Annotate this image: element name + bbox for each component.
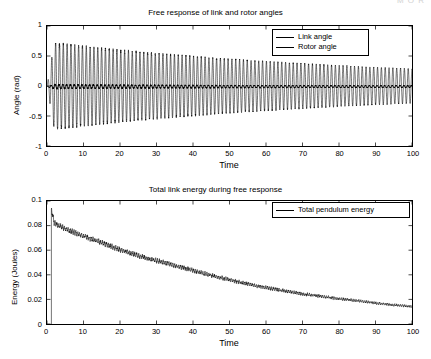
angle-legend: Link angle Rotor angle (272, 29, 369, 56)
legend-label-total-energy: Total pendulum energy (298, 206, 374, 214)
angle-yaxis-label: Angle (rad) (12, 75, 21, 115)
energy-xtick-10: 100 (407, 328, 420, 336)
angle-ytick-1: 0.5 (20, 52, 42, 60)
energy-xtick-1: 10 (79, 328, 87, 336)
energy-yaxis-label: Energy (Joules) (10, 249, 19, 305)
angle-xtick-0: 0 (44, 150, 48, 158)
energy-chart-title: Total link energy during free response (0, 185, 431, 195)
legend-label-rotor-angle: Rotor angle (298, 43, 337, 51)
angle-xtick-2: 20 (115, 150, 123, 158)
angle-xtick-9: 90 (372, 150, 380, 158)
energy-ytick-5: 0 (26, 321, 42, 329)
angle-xtick-5: 50 (225, 150, 233, 158)
energy-xtick-0: 0 (44, 328, 48, 336)
energy-xtick-5: 50 (225, 328, 233, 336)
energy-xtick-6: 60 (262, 328, 270, 336)
angle-xtick-3: 30 (152, 150, 160, 158)
angle-ytick-3: -0.5 (18, 113, 42, 121)
legend-line-icon (276, 210, 294, 211)
legend-label-link-angle: Link angle (298, 33, 332, 41)
angle-panel: Free response of link and rotor angles 1… (0, 0, 431, 180)
angle-xtick-8: 80 (335, 150, 343, 158)
legend-item-rotor-angle: Rotor angle (276, 42, 364, 52)
energy-panel: Total link energy during free response 0… (0, 180, 431, 359)
energy-ytick-0: 0.1 (18, 196, 42, 204)
legend-line-icon (276, 47, 294, 48)
angle-ytick-0: 1 (24, 21, 42, 29)
energy-plot-canvas (47, 201, 412, 324)
legend-item-total-energy: Total pendulum energy (276, 205, 405, 215)
angle-xtick-4: 40 (189, 150, 197, 158)
legend-line-icon (276, 37, 294, 38)
energy-xtick-2: 20 (115, 328, 123, 336)
angle-chart-title: Free response of link and rotor angles (0, 8, 431, 18)
angle-xtick-1: 10 (79, 150, 87, 158)
energy-xtick-3: 30 (152, 328, 160, 336)
legend-item-link-angle: Link angle (276, 32, 364, 42)
figure-container: Free response of link and rotor angles 1… (0, 0, 431, 359)
energy-xaxis-label: Time (219, 338, 239, 348)
energy-xtick-7: 70 (299, 328, 307, 336)
energy-legend: Total pendulum energy (272, 202, 410, 218)
energy-xtick-4: 40 (189, 328, 197, 336)
energy-xtick-9: 90 (372, 328, 380, 336)
angle-xtick-6: 60 (262, 150, 270, 158)
angle-ytick-2: 0 (24, 82, 42, 90)
energy-xtick-8: 80 (335, 328, 343, 336)
angle-xaxis-label: Time (219, 160, 239, 170)
angle-xtick-10: 100 (407, 150, 420, 158)
angle-xtick-7: 70 (299, 150, 307, 158)
angle-ytick-4: -1 (22, 143, 42, 151)
energy-ytick-1: 0.08 (12, 221, 42, 229)
energy-plot-area (46, 200, 413, 325)
